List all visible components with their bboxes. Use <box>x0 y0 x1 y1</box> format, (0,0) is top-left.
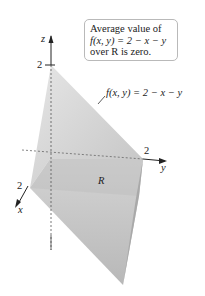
x-axis-label: x <box>18 204 23 215</box>
z-axis-label: z <box>41 33 45 44</box>
figure: Average value of f(x, y) = 2 − x − y ove… <box>0 0 205 296</box>
callout-line-1: Average value of <box>90 23 177 35</box>
surface-label: f(x, y) = 2 − x − y <box>106 87 182 98</box>
region-label: R <box>98 175 104 186</box>
callout-line-2: f(x, y) = 2 − x − y <box>90 35 177 47</box>
callout-line-3: over R is zero. <box>90 46 177 58</box>
x-tick-label: 2 <box>17 180 22 191</box>
average-value-callout: Average value of f(x, y) = 2 − x − y ove… <box>84 19 178 61</box>
y-axis-label: y <box>161 162 166 173</box>
y-tick-label: 2 <box>144 145 149 156</box>
z-tick-label: 2 <box>37 59 42 70</box>
